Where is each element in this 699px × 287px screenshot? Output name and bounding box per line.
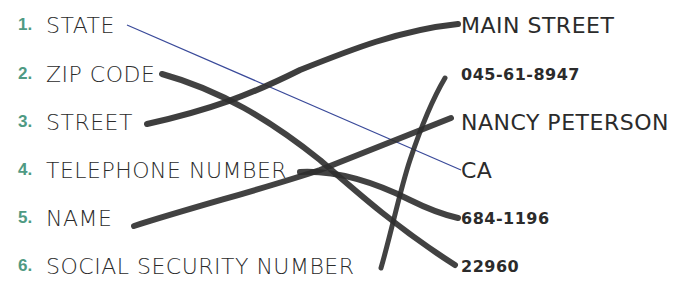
item-label: SOCIAL SECURITY NUMBER — [46, 254, 355, 279]
item-label: STATE — [46, 13, 115, 38]
item-label: STREET — [46, 110, 133, 135]
right-item-ca: CA — [461, 155, 492, 185]
item-number: 1. — [18, 15, 40, 35]
item-number: 6. — [18, 256, 40, 276]
item-label: TELEPHONE NUMBER — [46, 158, 287, 183]
item-number: 3. — [18, 112, 40, 132]
item-label: ZIP CODE — [46, 62, 155, 87]
item-number: 4. — [18, 160, 40, 180]
item-number: 5. — [18, 208, 40, 228]
right-item-nancy-peterson: NANCY PETERSON — [461, 107, 669, 137]
right-item-zip-value: 22960 — [461, 251, 519, 281]
line-ssn-to-045-61-8947 — [381, 78, 445, 268]
right-item-main-street: MAIN STREET — [461, 10, 614, 40]
item-number: 2. — [18, 64, 40, 84]
line-street-to-main-street — [147, 24, 458, 124]
connection-lines — [0, 0, 699, 287]
item-label: NAME — [46, 206, 112, 231]
line-telephone-to-684-1196 — [300, 172, 458, 218]
line-state-to-ca — [127, 25, 461, 170]
right-item-ssn-value: 045-61-8947 — [461, 59, 580, 89]
right-item-phone-value: 684-1196 — [461, 203, 550, 233]
